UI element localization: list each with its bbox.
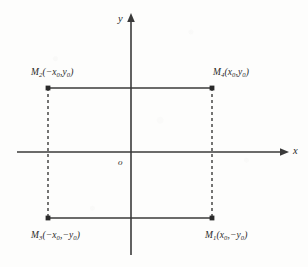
origin-label: o: [118, 158, 123, 167]
figure-canvas: [0, 0, 308, 267]
vertex-marker-m2: [46, 86, 51, 91]
point-label-m1: M1(x0,−y0): [205, 231, 247, 241]
y-axis-arrowhead: [127, 13, 135, 22]
x-axis-label: x: [293, 146, 298, 157]
coordinate-figure: M2(−x0,y0) M4(x0,y0) M3(−x0,−y0) M1(x0,−…: [0, 0, 308, 267]
vertex-marker-m4: [210, 86, 215, 91]
point-label-m2: M2(−x0,y0): [31, 68, 73, 78]
point-label-m4: M4(x0,y0): [213, 68, 249, 78]
vertex-marker-m1: [210, 216, 215, 221]
y-axis-label: y: [118, 14, 123, 25]
x-axis-arrowhead: [280, 148, 289, 156]
point-label-m3: M3(−x0,−y0): [31, 231, 80, 241]
vertex-marker-m3: [46, 216, 51, 221]
